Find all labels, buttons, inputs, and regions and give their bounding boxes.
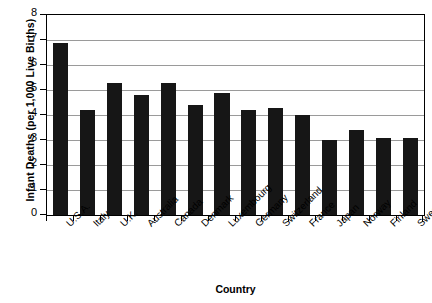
y-tick-label: 4 <box>31 106 37 118</box>
x-axis-title: Country <box>46 283 425 295</box>
bars-container <box>47 15 424 215</box>
bar-slot <box>182 15 209 215</box>
bar <box>134 95 149 215</box>
bar-slot <box>209 15 236 215</box>
y-tick-label: 3 <box>31 131 37 143</box>
bar <box>80 110 95 215</box>
bar-slot <box>235 15 262 215</box>
x-axis-label: Italy <box>91 221 99 229</box>
y-tick-label: 1 <box>31 181 37 193</box>
bar-slot <box>289 15 316 215</box>
bar-slot <box>155 15 182 215</box>
bar-slot <box>343 15 370 215</box>
bar-slot <box>316 15 343 215</box>
x-axis-label: Australia <box>145 221 153 229</box>
y-tick-label: 5 <box>31 81 37 93</box>
bar-slot <box>47 15 74 215</box>
x-axis-label: Japan <box>334 221 342 229</box>
x-axis-label: Luxembourg <box>226 221 234 229</box>
y-tick-label: 7 <box>31 31 37 43</box>
y-tick-label: 0 <box>31 206 37 218</box>
plot-area <box>46 14 425 216</box>
bar-slot <box>397 15 424 215</box>
x-axis-label: Switzerland <box>280 221 288 229</box>
x-axis-label: Denmark <box>199 221 207 229</box>
x-axis-label: Canada <box>172 221 180 229</box>
bar <box>53 43 68 216</box>
bar <box>107 83 122 216</box>
x-axis-label: U.K. <box>118 221 126 229</box>
y-tick-label: 6 <box>31 56 37 68</box>
bar-slot <box>128 15 155 215</box>
x-axis-label: Germany <box>253 221 261 229</box>
y-tick-label: 8 <box>31 6 37 18</box>
x-axis-label: Finland <box>388 221 396 229</box>
bar-slot <box>101 15 128 215</box>
x-axis-labels: U.S.A.ItalyU.K.AustraliaCanadaDenmarkLux… <box>46 221 425 279</box>
x-axis-label: France <box>307 221 315 229</box>
y-tick-label: 2 <box>31 156 37 168</box>
bar-slot <box>370 15 397 215</box>
x-axis-label: Sweden <box>415 221 423 229</box>
bar-chart: Infant Deaths (per 1,000 Live Births) 87… <box>0 0 432 303</box>
x-axis-label: Norway <box>361 221 369 229</box>
y-axis: 876543210 <box>0 14 46 216</box>
bar-slot <box>74 15 101 215</box>
x-axis-label: U.S.A. <box>64 221 72 229</box>
